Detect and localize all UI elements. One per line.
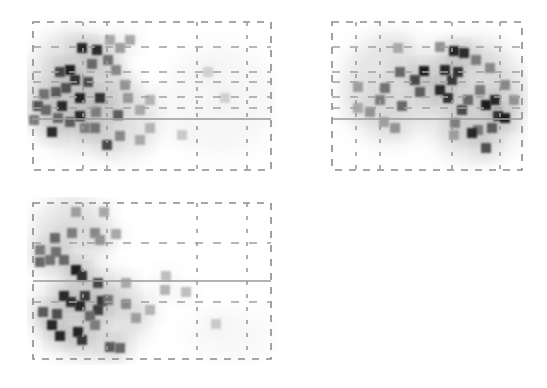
voxel bbox=[55, 331, 65, 341]
voxel bbox=[77, 43, 87, 53]
voxel bbox=[449, 130, 459, 140]
voxel bbox=[77, 335, 87, 345]
voxel bbox=[181, 287, 191, 297]
voxel bbox=[50, 233, 60, 243]
voxel bbox=[395, 67, 405, 77]
voxel bbox=[111, 229, 121, 239]
voxel bbox=[393, 43, 403, 53]
voxel bbox=[115, 131, 125, 141]
panel-axial bbox=[31, 195, 275, 360]
voxel bbox=[59, 255, 69, 265]
voxel bbox=[77, 271, 87, 281]
voxel bbox=[135, 135, 145, 145]
panel-coronal bbox=[332, 22, 527, 170]
voxel bbox=[160, 285, 170, 295]
voxel bbox=[103, 55, 113, 65]
glass-brain-figure bbox=[0, 0, 547, 388]
voxel bbox=[95, 93, 105, 103]
voxel bbox=[123, 93, 133, 103]
voxel bbox=[485, 63, 495, 73]
voxel bbox=[121, 278, 131, 288]
voxel bbox=[35, 245, 45, 255]
voxel bbox=[203, 67, 213, 77]
voxel bbox=[481, 143, 491, 153]
voxel bbox=[415, 87, 425, 97]
voxel bbox=[71, 207, 81, 217]
voxel bbox=[67, 228, 77, 238]
voxel bbox=[121, 299, 131, 309]
voxel bbox=[90, 320, 100, 330]
brain-projection-canvas bbox=[0, 0, 547, 388]
voxel bbox=[115, 343, 125, 353]
voxel bbox=[131, 313, 141, 323]
voxel bbox=[410, 75, 420, 85]
voxel bbox=[161, 271, 171, 281]
voxel bbox=[471, 55, 481, 65]
voxel bbox=[61, 83, 71, 93]
voxel bbox=[397, 101, 407, 111]
voxel bbox=[38, 307, 48, 317]
voxel bbox=[145, 305, 155, 315]
voxel bbox=[220, 93, 230, 103]
voxel bbox=[145, 123, 155, 133]
voxel bbox=[487, 123, 497, 133]
voxel bbox=[103, 295, 113, 305]
voxel bbox=[57, 101, 67, 111]
voxel bbox=[467, 128, 477, 138]
voxel bbox=[87, 59, 97, 69]
voxel bbox=[380, 83, 390, 93]
voxel bbox=[353, 82, 363, 92]
panel-sagittal bbox=[25, 22, 275, 170]
voxel bbox=[29, 115, 39, 125]
voxel bbox=[211, 319, 221, 329]
voxel bbox=[47, 127, 57, 137]
voxel bbox=[99, 207, 109, 217]
voxel bbox=[93, 278, 103, 288]
voxel bbox=[177, 130, 187, 140]
voxel bbox=[95, 235, 105, 245]
voxel bbox=[80, 123, 90, 133]
voxel bbox=[500, 113, 510, 123]
